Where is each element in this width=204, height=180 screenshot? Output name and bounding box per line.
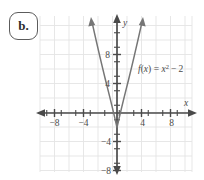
x-axis-right-arrowhead bbox=[188, 109, 197, 117]
equation-minus: − bbox=[171, 64, 176, 74]
coordinate-plane: −8 −4 4 8 8 4 −4 −8 y x f(x)=x2−2 bbox=[34, 10, 198, 176]
x-axis-label: x bbox=[183, 98, 189, 108]
graph-figure: b. bbox=[0, 0, 204, 180]
x-tick-labels: −8 −4 4 8 bbox=[49, 118, 174, 128]
equation-exponent: 2 bbox=[166, 63, 169, 70]
x-tick-label: −8 bbox=[49, 118, 59, 128]
y-tick-label: −4 bbox=[101, 137, 111, 147]
y-tick-label: 8 bbox=[105, 50, 110, 60]
x-tick-label: 4 bbox=[140, 118, 145, 128]
equation-close-paren: ) bbox=[148, 64, 151, 75]
y-tick-label: 4 bbox=[105, 79, 110, 89]
x-tick-label: 8 bbox=[169, 118, 174, 128]
equation-constant: 2 bbox=[178, 64, 183, 74]
x-axis-left-arrowhead bbox=[36, 109, 45, 117]
graph-svg: −8 −4 4 8 8 4 −4 −8 y x f(x)=x2−2 bbox=[34, 10, 198, 176]
equation-equals: = bbox=[154, 64, 159, 74]
y-axis bbox=[113, 14, 121, 175]
part-label-text: b. bbox=[18, 19, 28, 33]
y-axis-label: y bbox=[122, 18, 128, 28]
y-axis-top-arrowhead bbox=[113, 14, 121, 23]
y-tick-label: −8 bbox=[101, 166, 111, 176]
x-tick-label: −4 bbox=[78, 118, 88, 128]
